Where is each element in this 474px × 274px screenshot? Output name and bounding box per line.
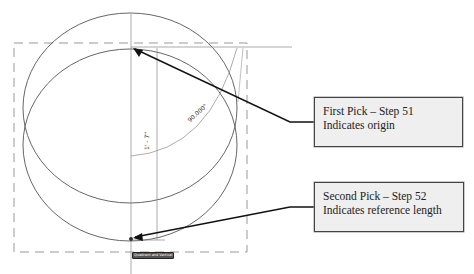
first-pick-leader <box>135 49 315 122</box>
first-pick-description: Indicates origin <box>323 118 454 132</box>
pick-point <box>129 237 133 241</box>
snap-tooltip: Quadrant and Vertical <box>132 252 174 259</box>
lower-circle <box>23 49 237 241</box>
second-pick-description: Indicates reference length <box>323 203 455 217</box>
dashed-boundary <box>14 43 247 252</box>
second-pick-title: Second Pick – Step 52 <box>323 189 455 203</box>
second-pick-leader <box>135 207 315 237</box>
first-pick-callout: First Pick – Step 51 Indicates origin <box>314 97 463 147</box>
second-pick-callout: Second Pick – Step 52 Indicates referenc… <box>314 182 464 232</box>
length-dimension-label: 1' - 7" <box>143 132 150 150</box>
angle-extension-line <box>238 48 243 102</box>
first-pick-title: First Pick – Step 51 <box>323 104 454 118</box>
